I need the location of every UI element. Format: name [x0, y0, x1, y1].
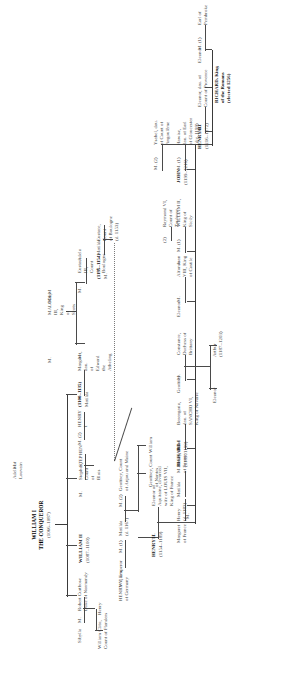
- node-m-eleanor-aquitaine: M.: [151, 529, 157, 539]
- node-m-eleanor-provence: M.: [197, 122, 203, 132]
- node-m1-matilda: M. (1): [118, 537, 124, 553]
- line-drop-child-eleanor: [187, 302, 195, 303]
- node-john-dates: (1199–1216): [183, 145, 189, 185]
- line-marriage-john-2: [162, 145, 163, 171]
- line-drop-stephen: [84, 466, 94, 467]
- node-stephen-blois: STEPHEN: [78, 427, 84, 467]
- line-drop-william-son: [137, 446, 146, 447]
- line-marriage-eleanor-alfonso: [185, 277, 186, 303]
- line-drop-robert: [66, 596, 77, 597]
- line-drop-henry1: [66, 395, 77, 396]
- chart-title-dates: (1066–1087): [46, 489, 52, 561]
- line-sibling-bar-geoffrey-children: [210, 346, 211, 390]
- node-m1-pembroke: M. (1): [197, 34, 203, 50]
- node-m-alfonso: M.: [176, 292, 182, 302]
- line-drop-geoffrey-kids2: [197, 367, 210, 368]
- node-m2-joan: (2): [162, 231, 168, 243]
- node-m-stephen-blois: Stephen, Count of Blois: [78, 470, 102, 480]
- node-sibylla: Sibylla: [77, 625, 83, 643]
- node-matilda-flanders: M.: [12, 413, 18, 469]
- line-drop-geoffrey-children: [184, 367, 198, 368]
- line-drop-william2: [66, 546, 77, 547]
- genealogy-chart: WILLIAM I THE CONQUEROR (1066–1087): [0, 0, 301, 693]
- node-henry-ii-dates: (1154–1189): [158, 517, 164, 557]
- node-henry-child: Henry: [97, 593, 103, 615]
- node-henry-iii-dates: (1216–1272): [204, 109, 210, 149]
- node-m1-joan: M. (1): [176, 236, 182, 252]
- node-eleanor-aquitaine: Eleanor of Aquitaine, divorced wife of L…: [151, 450, 175, 506]
- node-m2-john: M. (2): [153, 154, 159, 170]
- node-margaret-atheling: M.: [47, 319, 53, 363]
- node-robert-curthose: Robert Curthose Duke of Normandy: [77, 563, 89, 611]
- line-sibling-bar-matilda-children: [138, 446, 139, 512]
- line-marriage-matilda-saxony: [185, 471, 186, 497]
- node-m2-geoffrey: M. (2): [118, 491, 124, 507]
- line-marriage-eleanor-pembroke: [205, 25, 206, 51]
- node-eustace-iii: Adela: [77, 209, 83, 261]
- node-ysabel-angouleme: Ysabel, dau. of Count of Angoulême: [153, 101, 171, 145]
- node-richard-i-dates: (1189–1199): [183, 427, 189, 467]
- node-m-robert: M.: [77, 613, 83, 623]
- node-m-matilda-scot: Margaret, dau. of Edward the Atheling: [77, 361, 113, 371]
- line-drop-geoffrey-nantes: [137, 474, 146, 475]
- node-matilda-scotland: M.: [77, 333, 83, 359]
- node-stephen-king-dates: M.: [103, 239, 109, 279]
- line-drop-child-geoffrey: [187, 380, 195, 381]
- node-earl-pembroke: Earl of Pembroke: [197, 0, 209, 25]
- node-matilda-empress: Matilda (d. 1167): [118, 508, 130, 536]
- node-richard-i: RICHARD I: [176, 431, 182, 467]
- node-eleanor-brittany: Eleanor: [212, 377, 218, 403]
- node-geoffrey-anjou: Geoffrey, Count of Anjou and Maine: [118, 439, 130, 491]
- node-m1-john: M. (1): [176, 154, 182, 170]
- chart-title-name: WILLIAM I THE CONQUEROR: [31, 489, 44, 561]
- node-mary: M.: [77, 275, 83, 293]
- node-henry-i-dates: Matilda: [84, 371, 90, 407]
- line-title-drop: [55, 525, 67, 526]
- node-matilda-boulogne: Eustace, Count of Boulogne (d. 1153): [96, 215, 120, 241]
- node-arthur-brittany: Arthur (1187–1203): [212, 323, 224, 357]
- line-sibling-bar-henry2-children: [195, 144, 196, 524]
- node-m-malcolm: MALCOLM III, King of Scots: [47, 305, 77, 315]
- node-m-constance: M.: [176, 370, 182, 380]
- line-marriage-geoffrey-constance: [185, 355, 186, 381]
- node-m-berengaria: M.: [176, 439, 182, 449]
- line-drop-child-henry-young: [187, 506, 195, 507]
- line-drop-adela: [66, 479, 77, 480]
- node-matilda-saxony: Matilda: [176, 471, 182, 497]
- node-raymond-vi: Raymond VI, Count of Toulouse: [162, 187, 180, 227]
- node-malcolm-iii: Mary: [47, 255, 53, 303]
- line-sibling-bar-generation1: [67, 395, 68, 597]
- line-marriage-joan-2: [171, 227, 172, 241]
- node-richard-king-romans: RICHARD, King of the Romans (elected 125…: [214, 57, 232, 103]
- node-m-matilda-stephen: Matilda: [96, 245, 102, 255]
- line-succession-dotted: [114, 243, 115, 461]
- node-constance-brittany: Constance, Duchess of Brittany: [176, 315, 194, 355]
- node-william-ii-dates: (1087–1100): [85, 519, 91, 563]
- node-henry-iii: HENRY III: [197, 115, 203, 149]
- node-adela: M.: [78, 481, 84, 497]
- node-william-ii: WILLIAM II: [78, 519, 84, 563]
- rotated-chart-wrapper: WILLIAM I THE CONQUEROR (1066–1087): [0, 0, 301, 693]
- node-margaret-of-france: Margaret of France: [176, 513, 188, 543]
- node-william-child: William: [118, 561, 124, 587]
- node-henry-i: (1100–1135): [77, 377, 83, 407]
